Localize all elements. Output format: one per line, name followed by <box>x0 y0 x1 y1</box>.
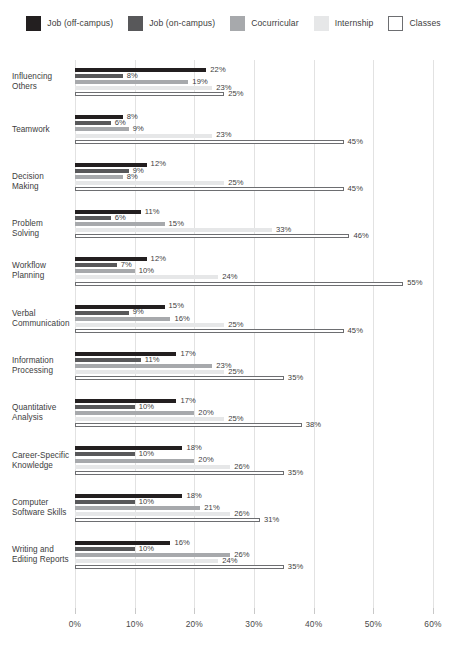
bar[interactable] <box>75 352 176 356</box>
legend-cocurricular[interactable]: Cocurricular <box>230 16 299 31</box>
bar[interactable] <box>75 169 129 173</box>
bar[interactable] <box>75 140 344 144</box>
bar-value-label: 25% <box>228 414 244 423</box>
bar-value-label: 22% <box>210 65 226 74</box>
bar[interactable] <box>75 423 302 427</box>
bar-value-label: 45% <box>348 184 364 193</box>
bar-value-label: 38% <box>306 420 322 429</box>
bar-value-label: 10% <box>139 544 155 553</box>
bar[interactable] <box>75 459 194 463</box>
grouped-bar-chart: Job (off-campus)Job (on-campus)Cocurricu… <box>0 0 467 654</box>
bar[interactable] <box>75 216 111 220</box>
bar-group: Teamwork8%6%9%23%45% <box>0 115 467 146</box>
bar[interactable] <box>75 358 141 362</box>
bar-value-label: 24% <box>222 272 238 281</box>
bar[interactable] <box>75 127 129 131</box>
bar[interactable] <box>75 323 224 327</box>
bar-value-label: 26% <box>234 462 250 471</box>
bar[interactable] <box>75 541 170 545</box>
bar[interactable] <box>75 471 284 475</box>
bar[interactable] <box>75 263 117 267</box>
category-label: Problem Solving <box>12 219 72 239</box>
bar[interactable] <box>75 553 230 557</box>
bar[interactable] <box>75 187 344 191</box>
bar-value-label: 46% <box>353 231 369 240</box>
bar[interactable] <box>75 452 135 456</box>
bar-value-label: 18% <box>186 443 202 452</box>
bar-row: 11% <box>75 358 433 362</box>
bar[interactable] <box>75 405 135 409</box>
bar-group: ComputerSoftware Skills18%10%21%26%31% <box>0 494 467 525</box>
bar[interactable] <box>75 317 170 321</box>
bar-row: 25% <box>75 323 433 327</box>
bar[interactable] <box>75 92 224 96</box>
bar-value-label: 35% <box>288 468 304 477</box>
bar[interactable] <box>75 494 182 498</box>
bar[interactable] <box>75 465 230 469</box>
bar-row: 38% <box>75 423 433 427</box>
bar[interactable] <box>75 282 403 286</box>
bar[interactable] <box>75 305 165 309</box>
bar[interactable] <box>75 446 182 450</box>
bar[interactable] <box>75 74 123 78</box>
bar-row: 45% <box>75 187 433 191</box>
chart-legend: Job (off-campus)Job (on-campus)Cocurricu… <box>0 0 467 46</box>
bar[interactable] <box>75 506 200 510</box>
bar-value-label: 19% <box>192 77 208 86</box>
bar[interactable] <box>75 547 135 551</box>
bar[interactable] <box>75 121 111 125</box>
bar[interactable] <box>75 311 129 315</box>
bar-value-label: 25% <box>228 178 244 187</box>
bar[interactable] <box>75 565 284 569</box>
bar-row: 35% <box>75 565 433 569</box>
bar-row: 18% <box>75 494 433 498</box>
bar-row: 26% <box>75 465 433 469</box>
bar[interactable] <box>75 222 165 226</box>
legend-job-on-campus[interactable]: Job (on-campus) <box>128 16 215 31</box>
bar[interactable] <box>75 134 212 138</box>
bar-row: 10% <box>75 452 433 456</box>
bar[interactable] <box>75 275 218 279</box>
bar[interactable] <box>75 68 206 72</box>
category-label: Writing andEditing Reports <box>12 545 72 565</box>
bar-row: 10% <box>75 500 433 504</box>
bar-value-label: 10% <box>139 497 155 506</box>
bar-row: 25% <box>75 370 433 374</box>
legend-internship[interactable]: Internship <box>314 16 374 31</box>
bar-row: 21% <box>75 506 433 510</box>
bar[interactable] <box>75 234 349 238</box>
bar[interactable] <box>75 512 230 516</box>
bar-value-label: 45% <box>348 137 364 146</box>
bar-value-label: 6% <box>115 213 126 222</box>
legend-job-off-campus[interactable]: Job (off-campus) <box>26 16 113 31</box>
bar-value-label: 12% <box>151 254 167 263</box>
bar-value-label: 7% <box>121 260 132 269</box>
bar[interactable] <box>75 181 224 185</box>
bar[interactable] <box>75 80 188 84</box>
bar[interactable] <box>75 329 344 333</box>
bar[interactable] <box>75 500 135 504</box>
bar[interactable] <box>75 86 212 90</box>
bar[interactable] <box>75 364 212 368</box>
bar[interactable] <box>75 257 147 261</box>
bar-value-label: 9% <box>133 124 144 133</box>
bar-group: QuantitativeAnalysis17%10%20%25%38% <box>0 399 467 430</box>
bar[interactable] <box>75 411 194 415</box>
bar[interactable] <box>75 210 141 214</box>
bar[interactable] <box>75 518 260 522</box>
legend-swatch-icon <box>388 16 403 31</box>
bar[interactable] <box>75 399 176 403</box>
bar[interactable] <box>75 559 218 563</box>
bar-row: 17% <box>75 399 433 403</box>
bar[interactable] <box>75 370 224 374</box>
bar-row: 23% <box>75 134 433 138</box>
bar-row: 8% <box>75 74 433 78</box>
bar[interactable] <box>75 417 224 421</box>
bar[interactable] <box>75 269 135 273</box>
legend-classes[interactable]: Classes <box>388 16 440 31</box>
bar[interactable] <box>75 228 272 232</box>
bar[interactable] <box>75 175 123 179</box>
bar-row: 25% <box>75 92 433 96</box>
bar-value-label: 26% <box>234 509 250 518</box>
bar[interactable] <box>75 376 284 380</box>
